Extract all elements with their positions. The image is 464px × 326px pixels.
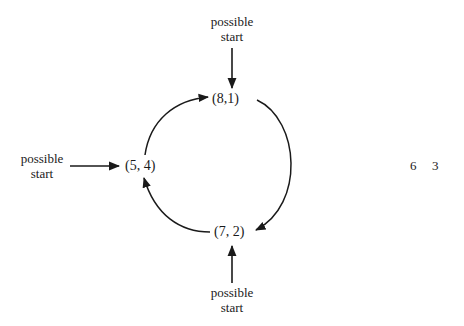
bottom-start-line2: start — [202, 300, 262, 315]
side-number-6: 6 — [410, 158, 417, 173]
bottom-start-line1: possible — [202, 285, 262, 300]
node-8-1: (8,1) — [212, 91, 239, 107]
top-start-line2: start — [202, 29, 262, 44]
edge-54-to-81 — [145, 97, 208, 155]
left-start-line2: start — [12, 166, 72, 181]
left-start-label: possible start — [12, 151, 72, 181]
top-start-line1: possible — [202, 14, 262, 29]
side-number-3: 3 — [432, 158, 439, 173]
edge-72-to-54 — [144, 178, 210, 232]
edge-81-to-72 — [256, 100, 291, 230]
bottom-start-label: possible start — [202, 285, 262, 315]
left-start-line1: possible — [12, 151, 72, 166]
top-start-label: possible start — [202, 14, 262, 44]
node-5-4: (5, 4) — [125, 158, 155, 174]
node-7-2: (7, 2) — [214, 224, 244, 240]
